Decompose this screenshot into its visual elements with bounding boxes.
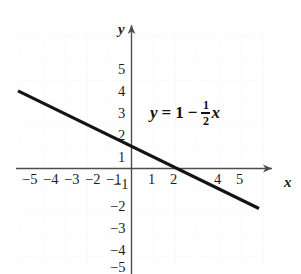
y-tick-label--1: −1 <box>113 177 128 192</box>
equation-fraction-term: 1 2 x <box>201 99 220 127</box>
fraction-numerator: 1 <box>202 99 210 111</box>
coordinate-plane <box>0 0 301 274</box>
x-tick-label-5: 5 <box>236 172 243 187</box>
graph-figure: y x −5 −4 −3 −2 −1 1 2 4 5 5 4 3 2 1 −1 … <box>0 0 301 274</box>
y-tick-label--2: −2 <box>110 199 125 214</box>
x-tick-label-1: 1 <box>148 172 155 187</box>
equation-minus-sign: − <box>188 103 198 123</box>
x-tick-label--5: −5 <box>22 172 37 187</box>
fraction-denominator: 2 <box>202 115 210 127</box>
y-tick-label--5: −5 <box>110 260 125 274</box>
y-tick-label--3: −3 <box>110 221 125 236</box>
equation-variable: x <box>211 103 220 123</box>
equation-equals-sign: = <box>162 103 172 123</box>
x-tick-label--3: −3 <box>64 172 79 187</box>
x-tick-label--4: −4 <box>43 172 58 187</box>
y-tick-label-3: 3 <box>118 106 125 121</box>
equation-constant: 1 <box>175 103 184 123</box>
y-tick-label--4: −4 <box>110 243 125 258</box>
y-tick-label-4: 4 <box>118 84 125 99</box>
x-tick-label-2: 2 <box>170 172 177 187</box>
x-tick-label--2: −2 <box>85 172 100 187</box>
y-tick-label-5: 5 <box>118 62 125 77</box>
equation-annotation: y = 1 − 1 2 x <box>150 99 220 127</box>
fraction-one-half: 1 2 <box>201 99 210 127</box>
y-tick-label-1: 1 <box>118 150 125 165</box>
y-tick-label-2: 2 <box>118 128 125 143</box>
x-tick-label-4: 4 <box>214 172 221 187</box>
x-axis-label: x <box>284 175 292 190</box>
y-axis-label: y <box>118 22 125 37</box>
equation-lhs: y <box>150 103 158 123</box>
